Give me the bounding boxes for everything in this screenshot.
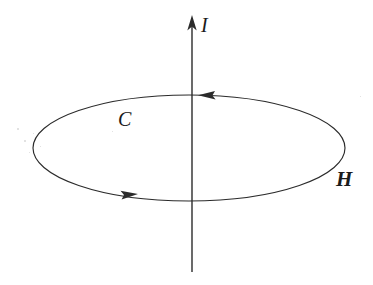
scan-speck — [33, 133, 34, 134]
contour-ellipse — [33, 95, 345, 201]
scan-speck — [24, 140, 26, 142]
scan-speck — [112, 131, 113, 132]
contour-label: C — [118, 109, 131, 129]
field-label: H — [336, 169, 352, 190]
ampere-law-diagram — [0, 0, 373, 285]
scan-speck — [17, 128, 19, 130]
scan-speck — [29, 152, 30, 153]
scan-speck — [40, 146, 41, 147]
scan-speck — [360, 96, 361, 97]
current-label: I — [201, 15, 208, 35]
figure-canvas: I C H — [0, 0, 373, 285]
